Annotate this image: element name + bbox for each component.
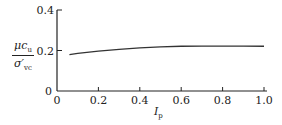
- x-tick-label: 0.6: [172, 94, 190, 107]
- y-tick-label: 0.4: [37, 4, 55, 17]
- x-tick-label: 1.0: [255, 94, 273, 107]
- x-tick-label: 0.4: [131, 94, 149, 107]
- chart-canvas: 00.20.40.60.81.000.20.4: [0, 0, 282, 125]
- x-axis-label: Ip: [154, 106, 163, 120]
- x-tick-label: 0.2: [90, 94, 108, 107]
- y-tick-label: 0: [45, 85, 52, 98]
- y-tick-label: 0.2: [37, 45, 55, 58]
- x-tick-label: 0.8: [214, 94, 232, 107]
- data-line: [69, 46, 264, 55]
- y-axis-label: μcu σ′vc: [12, 39, 34, 72]
- x-tick-label: 0: [54, 94, 61, 107]
